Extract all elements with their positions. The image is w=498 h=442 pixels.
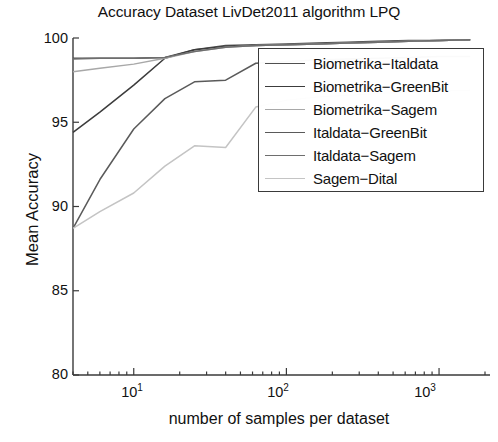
legend-item[interactable]: Italdata−Sagem: [259, 144, 483, 167]
legend-item[interactable]: Sagem−Dital: [259, 167, 483, 190]
legend-item[interactable]: Biometrika−Sagem: [259, 98, 483, 121]
legend-item[interactable]: Biometrika−GreenBit: [259, 75, 483, 98]
legend-item-label: Italdata−GreenBit: [313, 124, 427, 141]
legend-item[interactable]: Biometrika−Italdata: [259, 52, 483, 75]
legend-item-label: Biometrika−GreenBit: [313, 78, 448, 95]
legend-line-swatch: [265, 109, 305, 110]
legend-item-label: Sagem−Dital: [313, 170, 397, 187]
legend-item-label: Italdata−Sagem: [313, 147, 416, 164]
legend-line-swatch: [265, 86, 305, 87]
legend-line-swatch: [265, 63, 305, 64]
chart-figure: Accuracy Dataset LivDet2011 algorithm LP…: [0, 0, 498, 442]
legend-item[interactable]: Italdata−GreenBit: [259, 121, 483, 144]
legend-line-swatch: [265, 178, 305, 179]
legend-line-swatch: [265, 132, 305, 133]
legend-item-label: Biometrika−Sagem: [313, 101, 437, 118]
legend-line-swatch: [265, 155, 305, 156]
chart-legend: Biometrika−Italdata Biometrika−GreenBit …: [258, 48, 484, 192]
legend-item-label: Biometrika−Italdata: [313, 55, 438, 72]
